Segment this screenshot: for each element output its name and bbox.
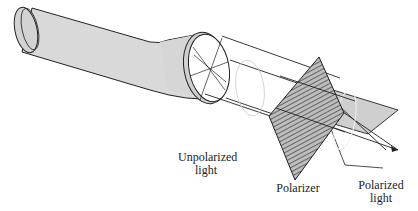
polarizer-label: Polarizer (273, 182, 323, 195)
polarizer-label-text: Polarizer (273, 182, 323, 195)
unpolarized-label-line2: light (178, 164, 234, 177)
polarized-light-label: Polarized light (355, 179, 407, 205)
polarized-label-line2: light (355, 192, 407, 205)
unpolarized-light-label: Unpolarized light (178, 151, 234, 177)
polarization-diagram: Unpolarized light Polarizer Polarized li… (0, 0, 418, 211)
flashlight (10, 5, 234, 107)
